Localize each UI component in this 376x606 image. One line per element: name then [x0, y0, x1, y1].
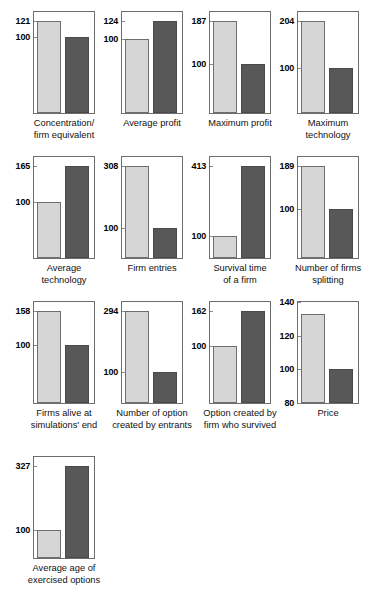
bar-comparison [241, 166, 265, 258]
caption-line: Price [317, 408, 338, 420]
panel-caption: Concentration/firm equivalent [34, 118, 94, 141]
chart-panel: 158100Firms alive atsimulations' end [33, 301, 95, 404]
bar-reference [37, 311, 61, 403]
caption-line: Maximum profit [208, 118, 272, 130]
chart-panel: 294100Number of optioncreated by entrant… [121, 301, 183, 404]
axis-tick-mark [34, 21, 37, 22]
axis-tick-label: 100 [280, 205, 294, 214]
chart-panel: 162100Option created byfirm who survived [209, 301, 271, 404]
caption-line: Firms alive at [31, 408, 97, 420]
axis-tick-label: 189 [280, 161, 294, 170]
bar-comparison [329, 209, 353, 258]
axis-tick-mark [122, 21, 125, 22]
axis-tick-label: 100 [16, 198, 30, 207]
axis-tick-mark [34, 166, 37, 167]
bar-comparison [65, 166, 89, 258]
chart-panel: 204100Maximumtechnology [297, 11, 359, 114]
chart-panel: 121100Concentration/firm equivalent [33, 11, 95, 114]
axis-tick-mark [210, 64, 213, 65]
axis-tick-label: 158 [16, 306, 30, 315]
axis-tick-mark [34, 345, 37, 346]
axis-tick-label: 140 [280, 298, 294, 307]
caption-line: Firm entries [127, 263, 176, 275]
axis-tick-label: 100 [16, 33, 30, 42]
chart-panel: 327100Average age ofexercised options [33, 456, 95, 559]
panel-caption: Maximumtechnology [306, 118, 351, 141]
caption-line: firm equivalent [34, 130, 94, 142]
axis-tick-mark [210, 166, 213, 167]
axis-tick-label: 100 [104, 367, 118, 376]
panel-caption: Average profit [123, 118, 181, 130]
axis-tick-label: 187 [192, 16, 206, 25]
bar-group [34, 157, 94, 258]
panel-caption: Number of firmssplitting [295, 263, 361, 286]
axis-tick-label: 100 [192, 231, 206, 240]
bar-group [210, 12, 270, 113]
axis-tick-mark [34, 530, 37, 531]
bar-reference [125, 311, 149, 403]
caption-line: technology [42, 275, 87, 287]
caption-line: technology [306, 130, 351, 142]
bar-reference [213, 346, 237, 403]
axis-tick-label: 100 [16, 340, 30, 349]
axis-tick-label: 100 [104, 224, 118, 233]
axis-tick-mark [34, 466, 37, 467]
axis-tick-label: 165 [16, 161, 30, 170]
caption-line: Average age of [28, 563, 100, 575]
bar-comparison [241, 311, 265, 403]
axis-tick-mark [122, 166, 125, 167]
axis-tick-label: 162 [192, 307, 206, 316]
axis-tick-label: 413 [192, 161, 206, 170]
axis-tick-label: 294 [104, 306, 118, 315]
plot-box [209, 156, 271, 259]
bar-reference [213, 21, 237, 113]
bar-comparison [153, 228, 177, 258]
axis-tick-mark [34, 37, 37, 38]
bar-chart-grid: 121100Concentration/firm equivalent12410… [0, 0, 376, 606]
plot-box [33, 456, 95, 559]
caption-line: Average profit [123, 118, 181, 130]
bar-comparison [65, 345, 89, 403]
axis-tick-mark [298, 403, 301, 404]
bar-reference [37, 21, 61, 113]
plot-box [297, 11, 359, 114]
axis-tick-label: 327 [16, 462, 30, 471]
bar-reference [301, 314, 325, 403]
caption-line: splitting [295, 275, 361, 287]
caption-line: simulations' end [31, 420, 97, 432]
bar-comparison [65, 37, 89, 113]
bar-reference [301, 166, 325, 258]
axis-tick-mark [298, 336, 301, 337]
plot-box [209, 301, 271, 404]
axis-tick-mark [298, 209, 301, 210]
axis-tick-mark [298, 68, 301, 69]
plot-box [33, 156, 95, 259]
bar-comparison [153, 21, 177, 113]
axis-tick-mark [210, 236, 213, 237]
axis-tick-label: 121 [16, 17, 30, 26]
axis-tick-mark [298, 369, 301, 370]
axis-tick-mark [210, 21, 213, 22]
caption-line: Average [42, 263, 87, 275]
plot-box [121, 11, 183, 114]
axis-tick-label: 100 [280, 63, 294, 72]
chart-panel: 189100Number of firmssplitting [297, 156, 359, 259]
panel-caption: Maximum profit [208, 118, 272, 130]
axis-tick-label: 308 [104, 161, 118, 170]
bar-group [210, 157, 270, 258]
axis-tick-mark [210, 346, 213, 347]
axis-tick-label: 204 [280, 17, 294, 26]
plot-box [297, 301, 359, 404]
panel-caption: Firms alive atsimulations' end [31, 408, 97, 431]
bar-group [34, 457, 94, 558]
caption-line: Concentration/ [34, 118, 94, 130]
bar-group [122, 157, 182, 258]
panel-caption: Price [317, 408, 338, 420]
chart-panel: 308100Firm entries [121, 156, 183, 259]
axis-tick-mark [210, 311, 213, 312]
axis-tick-label: 100 [16, 525, 30, 534]
plot-box [121, 156, 183, 259]
bar-group [210, 302, 270, 403]
panel-caption: Option created byfirm who survived [203, 408, 276, 431]
bar-group [298, 12, 358, 113]
